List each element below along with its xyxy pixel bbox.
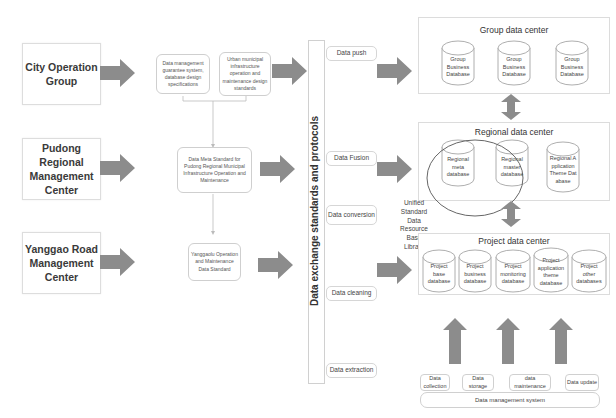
database-cylinder: Project business database bbox=[458, 249, 492, 293]
standard-pudong-data-meta: Data Meta Standard for Pudong Regional M… bbox=[177, 147, 252, 193]
process-label: Data conversion bbox=[328, 211, 375, 219]
database-cylinder: Group Business Database bbox=[441, 40, 475, 86]
database-label: Group Business Database bbox=[497, 56, 531, 79]
up-arrow-icon bbox=[443, 318, 467, 364]
group-data-center: Group data center Group Business Databas… bbox=[418, 17, 610, 94]
right-arrow-icon bbox=[260, 155, 296, 183]
database-label: Group Business Database bbox=[555, 56, 589, 79]
org-label: Yanggao Road Management Center bbox=[23, 242, 100, 285]
database-label: Project business database bbox=[458, 263, 492, 286]
standard-yanggaolu-operation: Yanggaolu Operation and Maintenance Data… bbox=[188, 243, 241, 281]
right-arrow-icon bbox=[272, 57, 308, 85]
mgmt-data-update: Data update bbox=[565, 374, 599, 391]
database-cylinder: Group Business Database bbox=[497, 40, 531, 86]
up-arrow-icon bbox=[549, 318, 573, 364]
org-pudong-regional-management-center: Pudong Regional Management Center bbox=[22, 138, 101, 200]
standard-label: Data management guarantee system, databa… bbox=[159, 60, 207, 89]
data-management-system: Data management system bbox=[420, 392, 600, 408]
center-title: Group data center bbox=[419, 25, 609, 35]
mgmt-data-maintenance: data maintenance bbox=[509, 374, 551, 391]
standard-label: Urban municipal infrastructure operation… bbox=[222, 56, 268, 92]
right-arrow-icon bbox=[258, 251, 294, 279]
exchange-standards-label: Data exchange standards and protocols bbox=[309, 61, 323, 361]
right-arrow-icon bbox=[377, 256, 413, 284]
standard-label: Yanggaolu Operation and Maintenance Data… bbox=[191, 251, 238, 273]
org-label: City Operation Group bbox=[23, 60, 100, 88]
mgmt-label: Data update bbox=[567, 379, 597, 386]
org-city-operation-group: City Operation Group bbox=[22, 43, 101, 105]
database-cylinder: Regional Application Theme Database bbox=[546, 141, 580, 193]
right-arrow-icon bbox=[100, 248, 136, 276]
standard-data-management-guarantee: Data management guarantee system, databa… bbox=[156, 54, 210, 94]
database-label: Project application theme database bbox=[533, 257, 569, 288]
project-data-center: Project data center Project base databas… bbox=[418, 233, 610, 295]
database-label: Project other databases bbox=[571, 263, 607, 286]
standard-label: Data Meta Standard for Pudong Regional M… bbox=[180, 156, 249, 185]
center-title: Project data center bbox=[419, 236, 609, 246]
bidirectional-arrow-icon bbox=[500, 94, 522, 120]
org-yanggao-road-management-center: Yanggao Road Management Center bbox=[22, 232, 101, 294]
process-label: Data cleaning bbox=[332, 289, 372, 297]
database-cylinder: Group Business Database bbox=[555, 40, 589, 86]
database-label: Regional Application Theme Database bbox=[546, 155, 580, 186]
database-label: Group Business Database bbox=[441, 56, 475, 79]
process-data-cleaning: Data cleaning bbox=[326, 286, 377, 301]
right-arrow-icon bbox=[377, 57, 413, 85]
database-label: Project base database bbox=[422, 263, 456, 286]
org-label: Pudong Regional Management Center bbox=[23, 141, 100, 198]
process-data-extraction: Data extraction bbox=[326, 363, 377, 378]
bidirectional-arrow-icon bbox=[500, 201, 522, 227]
database-cylinder: Project base database bbox=[422, 249, 456, 293]
database-cylinder: Project application theme database bbox=[533, 247, 569, 293]
mgmt-data-storage: Data storage bbox=[462, 374, 494, 391]
database-cylinder: Project monitoring database bbox=[495, 249, 531, 293]
up-arrow-icon bbox=[496, 318, 520, 364]
center-title: Regional data center bbox=[419, 127, 609, 137]
process-label: Data extraction bbox=[330, 366, 374, 374]
mgmt-data-collection: Data collection bbox=[420, 374, 450, 391]
process-data-conversion: Data conversion bbox=[326, 205, 377, 225]
right-arrow-icon bbox=[100, 59, 136, 87]
standard-urban-municipal-infrastructure: Urban municipal infrastructure operation… bbox=[219, 52, 271, 96]
process-data-push: Data push bbox=[326, 46, 377, 61]
mgmt-label: data maintenance bbox=[510, 375, 550, 389]
process-data-fusion: Data Fusion bbox=[326, 151, 377, 166]
mgmt-label: Data storage bbox=[463, 375, 493, 389]
right-arrow-icon bbox=[377, 155, 413, 183]
mgmt-system-label: Data management system bbox=[475, 397, 545, 403]
database-label: Project monitoring database bbox=[495, 263, 531, 286]
right-arrow-icon bbox=[100, 154, 136, 182]
mgmt-label: Data collection bbox=[421, 375, 449, 389]
process-label: Data Fusion bbox=[334, 154, 369, 162]
database-cylinder: Project other databases bbox=[571, 249, 607, 293]
process-label: Data push bbox=[337, 49, 367, 57]
